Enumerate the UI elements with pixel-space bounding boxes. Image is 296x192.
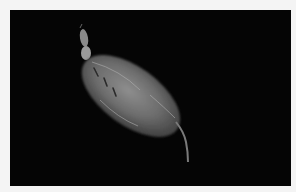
antenna bbox=[78, 24, 91, 60]
photo-frame bbox=[10, 10, 291, 186]
specimen-illustration bbox=[10, 10, 291, 186]
